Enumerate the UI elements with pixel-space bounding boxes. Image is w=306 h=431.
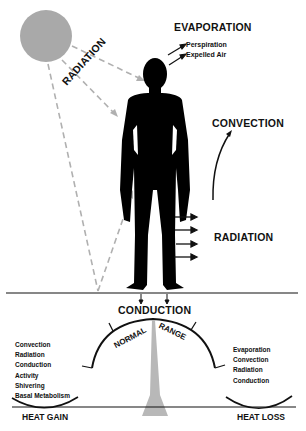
heat-gain-list: Convection Radiation Conduction Activity…: [15, 340, 70, 401]
heat-loss-item: Radiation: [233, 365, 271, 375]
convection-arrowhead: [226, 130, 232, 137]
heat-loss-item: Evaporation: [233, 345, 271, 355]
heat-loss-item: Convection: [233, 355, 271, 365]
heat-gain-item: Shivering: [15, 381, 70, 391]
expelled-air-label: Expelled Air: [186, 51, 226, 58]
heat-balance-diagram: EVAPORATION Perspiration Expelled Air RA…: [0, 0, 306, 431]
heat-loss-label: HEAT LOSS: [237, 413, 285, 422]
heat-gain-item: Basal Metabolism: [15, 391, 70, 401]
heat-gain-item: Convection: [15, 340, 70, 350]
heat-gain-label: HEAT GAIN: [22, 413, 68, 422]
convection-arrow: [213, 133, 230, 200]
heat-gain-item: Activity: [15, 371, 70, 381]
conduction-arrows: [139, 294, 169, 304]
heat-loss-item: Conduction: [233, 376, 271, 386]
evaporation-arrows: [168, 44, 186, 65]
heat-gain-item: Conduction: [15, 360, 70, 370]
body-radiation-label: RADIATION: [214, 232, 273, 243]
perspiration-label: Perspiration: [186, 41, 227, 48]
evaporation-label: EVAPORATION: [174, 22, 252, 33]
heat-loss-list: Evaporation Convection Radiation Conduct…: [233, 345, 271, 386]
heat-gain-item: Radiation: [15, 350, 70, 360]
convection-label: CONVECTION: [212, 118, 284, 129]
sun-icon: [20, 10, 72, 62]
body-radiation-arrows: [174, 214, 197, 260]
conduction-label: CONDUCTION: [118, 305, 191, 316]
